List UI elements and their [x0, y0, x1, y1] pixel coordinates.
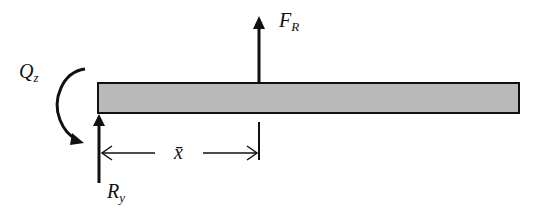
reaction-moment-arrow [57, 69, 85, 145]
beam [98, 83, 519, 113]
beam-free-body-diagram: FR Ry Qz x̄ [0, 0, 541, 214]
reaction-force-arrow [93, 114, 105, 183]
distance-label: x̄ [173, 141, 183, 163]
resultant-force-arrow [253, 16, 265, 83]
reaction-moment-label: Qz [19, 60, 39, 85]
reaction-force-label: Ry [106, 180, 125, 205]
resultant-force-label: FR [278, 9, 299, 34]
